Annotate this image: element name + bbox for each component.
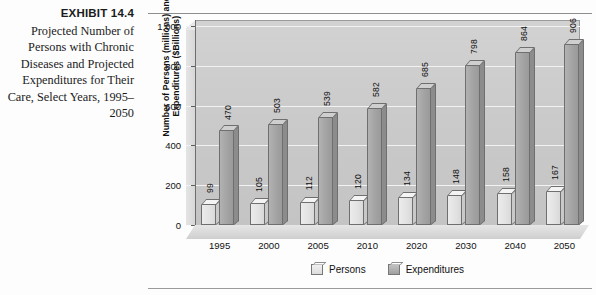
bar-expenditures — [268, 119, 283, 225]
bar-front-face — [349, 200, 364, 225]
bar-value-label: 134 — [402, 171, 412, 186]
y-tick-label: 600 — [165, 100, 181, 111]
exhibit-figure: EXHIBIT 14.4 Projected Number of Persons… — [0, 0, 596, 295]
x-tick-label: 2020 — [406, 240, 427, 251]
y-tick-label: 200 — [165, 180, 181, 191]
bar-value-label: 798 — [469, 39, 479, 54]
exhibit-number: EXHIBIT 14.4 — [0, 6, 134, 20]
bar-front-face — [250, 203, 265, 225]
bar-value-label: 470 — [223, 105, 233, 120]
x-tick-label: 2030 — [455, 240, 476, 251]
bar-value-label: 503 — [272, 98, 282, 113]
bar-persons — [447, 190, 462, 225]
bar-value-label: 99 — [205, 183, 215, 193]
plot-floor — [186, 225, 589, 239]
bar-side-face — [579, 40, 584, 225]
bar-expenditures — [465, 60, 480, 225]
bar-front-face — [219, 130, 234, 225]
bar-side-face — [480, 61, 485, 225]
bar-persons — [300, 197, 315, 225]
bar-persons — [201, 199, 216, 225]
bar-front-face — [564, 44, 579, 225]
bar-expenditures — [367, 103, 382, 225]
x-tick-label: 2010 — [357, 240, 378, 251]
y-tick-label: 400 — [165, 140, 181, 151]
y-tick-label: 0 — [176, 220, 181, 231]
x-tick-label: 2005 — [307, 240, 328, 251]
legend-item-persons: Persons — [311, 264, 366, 275]
x-tick-label: 2040 — [504, 240, 525, 251]
bar-value-label: 112 — [304, 176, 314, 190]
exhibit-caption: Projected Number of Persons with Chronic… — [0, 23, 134, 121]
bar-persons — [546, 186, 561, 225]
bar-group: 158864 — [491, 20, 540, 225]
legend-label-expenditures: Expenditures — [406, 264, 464, 275]
bar-value-label: 167 — [550, 165, 560, 180]
x-axis-labels: 19952000200520102020203020402050 — [186, 240, 589, 256]
bar-group: 112539 — [294, 20, 343, 225]
bar-value-label: 148 — [451, 169, 461, 184]
bar-side-face — [283, 120, 288, 225]
legend-label-persons: Persons — [329, 264, 366, 275]
bar-side-face — [530, 48, 535, 225]
bar-expenditures — [416, 83, 431, 225]
bar-value-label: 864 — [519, 26, 529, 41]
bar-front-face — [515, 52, 530, 225]
bar-front-face — [201, 204, 216, 225]
bar-expenditures — [564, 39, 579, 225]
bar-value-label: 105 — [254, 177, 264, 192]
bar-value-label: 158 — [501, 167, 511, 182]
bar-side-face — [382, 104, 387, 225]
x-tick-label: 2000 — [258, 240, 279, 251]
chart-region: Number of Persons (millions) and Expendi… — [124, 18, 590, 280]
bar-front-face — [447, 195, 462, 225]
bar-group: 148798 — [441, 20, 490, 225]
bar-expenditures — [219, 125, 234, 225]
bar-group: 134685 — [392, 20, 441, 225]
bar-persons — [398, 192, 413, 225]
bar-front-face — [268, 124, 283, 225]
bar-value-label: 582 — [371, 82, 381, 97]
y-tick-label: 1,000 — [157, 21, 181, 32]
y-tick-label: 800 — [165, 60, 181, 71]
bar-value-label: 685 — [420, 62, 430, 77]
bar-front-face — [416, 88, 431, 225]
bar-front-face — [300, 202, 315, 225]
bar-side-face — [234, 126, 239, 225]
bar-expenditures — [515, 47, 530, 225]
legend-swatch-expenditures-icon — [388, 264, 400, 275]
plot-area: 02004006008001,000 994701055031125391205… — [186, 20, 580, 225]
bar-front-face — [465, 65, 480, 225]
legend-item-expenditures: Expenditures — [388, 264, 464, 275]
bar-front-face — [546, 191, 561, 225]
bar-front-face — [318, 117, 333, 225]
bar-group: 105503 — [244, 20, 293, 225]
chart-legend: Persons Expenditures — [186, 264, 589, 275]
legend-swatch-persons-icon — [311, 264, 323, 275]
bar-value-label: 120 — [353, 174, 363, 189]
bar-group: 120582 — [343, 20, 392, 225]
caption-column: EXHIBIT 14.4 Projected Number of Persons… — [0, 6, 140, 121]
bars-layer: 9947010550311253912058213468514879815886… — [195, 20, 589, 225]
x-tick-label: 1995 — [209, 240, 230, 251]
bar-value-label: 906 — [568, 18, 578, 33]
bar-persons — [497, 188, 512, 225]
bar-front-face — [367, 108, 382, 225]
bar-front-face — [398, 197, 413, 225]
bar-side-face — [333, 113, 338, 225]
bar-persons — [250, 198, 265, 225]
bar-side-face — [431, 83, 436, 225]
bar-group: 99470 — [195, 20, 244, 225]
figure-top-rule — [148, 13, 592, 14]
figure-bottom-rule — [148, 288, 592, 289]
bar-group: 167906 — [540, 20, 589, 225]
bar-front-face — [497, 193, 512, 225]
bar-expenditures — [318, 112, 333, 225]
bar-value-label: 539 — [322, 91, 332, 106]
x-tick-label: 2050 — [554, 240, 575, 251]
bar-persons — [349, 195, 364, 225]
